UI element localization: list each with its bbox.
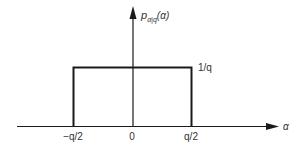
y-axis-label: pα|q(α) [140,9,169,24]
x-axis-label: α [283,121,289,132]
tick-label-left: −q/2 [63,131,83,142]
pdf-diagram: pα|q(α) 1/q α −q/2 0 q/2 [0,0,300,147]
tick-label-right: q/2 [184,131,198,142]
tick-label-center: 0 [129,131,135,142]
x-axis-arrow-icon [266,123,279,130]
level-label: 1/q [198,62,212,73]
y-axis-arrow-icon [130,6,137,19]
